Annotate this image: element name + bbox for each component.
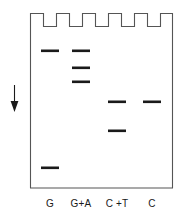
lane-label-g-a: G+A <box>61 198 101 210</box>
band <box>41 167 59 170</box>
gel-diagram-svg <box>0 0 183 223</box>
band <box>108 130 126 133</box>
band <box>72 67 90 70</box>
lane-label-c: C <box>132 198 172 210</box>
lane-bands-g-a <box>72 50 90 84</box>
migration-direction-arrow <box>11 85 19 112</box>
sequencing-gel-figure: G G+A C +T C <box>0 0 183 223</box>
band <box>143 101 161 104</box>
lane-bands-c <box>143 101 161 104</box>
lane-bands-g <box>41 50 59 170</box>
lane-label-c-t: C +T <box>97 198 137 210</box>
band <box>72 50 90 53</box>
band <box>108 101 126 104</box>
band <box>72 81 90 84</box>
lane-bands-c-t <box>108 101 126 133</box>
migration-arrow-head <box>11 101 19 112</box>
band <box>41 50 59 53</box>
